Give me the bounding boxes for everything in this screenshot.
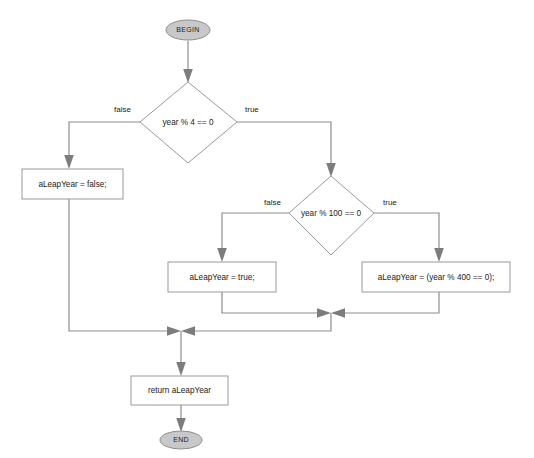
flowchart-canvas: BEGIN year % 4 == 0 aLeapYear = false; y… xyxy=(0,0,534,458)
decision-mod4-label: year % 4 == 0 xyxy=(163,118,214,127)
edge-merge-upper-to-merge-lower xyxy=(181,313,331,336)
node-begin[interactable]: BEGIN xyxy=(166,20,210,40)
edge-label-mod100-false: false xyxy=(264,198,281,207)
node-return-statement[interactable]: return aLeapYear xyxy=(131,376,228,405)
decision-mod100-label: year % 100 == 0 xyxy=(301,209,362,218)
node-assign-mod-400[interactable]: aLeapYear = (year % 400 == 0); xyxy=(362,262,510,292)
edge-label-mod4-true: true xyxy=(245,105,259,114)
node-assign-false[interactable]: aLeapYear = false; xyxy=(22,169,123,199)
edge-layer xyxy=(64,41,444,432)
begin-label: BEGIN xyxy=(176,26,199,33)
edge-return-to-end xyxy=(176,405,186,432)
node-assign-true[interactable]: aLeapYear = true; xyxy=(168,262,276,292)
edge-merge-lower-to-return xyxy=(176,331,186,376)
flowchart-svg: BEGIN year % 4 == 0 aLeapYear = false; y… xyxy=(0,0,534,458)
edge-assignmod400-to-merge-upper xyxy=(331,292,439,318)
edge-mod100-false xyxy=(217,213,289,262)
assign-mod400-label: aLeapYear = (year % 400 == 0); xyxy=(378,273,494,282)
edge-mod100-true xyxy=(374,213,444,262)
edge-begin-to-mod4 xyxy=(183,41,193,83)
node-decision-year-mod-4[interactable]: year % 4 == 0 xyxy=(140,82,237,163)
node-decision-year-mod-100[interactable]: year % 100 == 0 xyxy=(289,176,374,255)
edge-mod4-true xyxy=(237,122,336,177)
edge-label-mod100-true: true xyxy=(383,198,397,207)
assign-true-label: aLeapYear = true; xyxy=(189,273,254,282)
end-label: END xyxy=(173,436,189,443)
node-end[interactable]: END xyxy=(160,431,202,449)
edge-assigntrue-to-merge-upper xyxy=(222,292,331,318)
assign-false-label: aLeapYear = false; xyxy=(38,180,106,189)
edge-mod4-false xyxy=(64,122,140,169)
return-statement-label: return aLeapYear xyxy=(148,386,211,395)
edge-label-mod4-false: false xyxy=(114,105,131,114)
edge-assignfalse-to-merge-lower xyxy=(69,199,181,336)
